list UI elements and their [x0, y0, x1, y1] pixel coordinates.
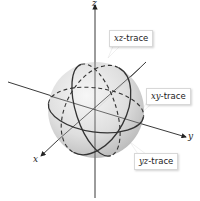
x-axis-front	[41, 140, 58, 156]
y-axis-front	[142, 124, 186, 137]
yz-trace-suffix: -trace	[148, 156, 173, 166]
xz-trace-callout: xz-trace	[109, 30, 153, 47]
xz-trace-var: xz	[114, 33, 123, 43]
xy-trace-callout: xy-trace	[146, 88, 191, 105]
y-axis-label: y	[188, 131, 193, 141]
xy-trace-var: xy	[151, 91, 161, 101]
xz-trace-suffix: -trace	[123, 33, 148, 43]
x-axis-label: x	[33, 154, 38, 164]
yz-trace-var: yz	[139, 156, 148, 166]
z-axis-label: z	[92, 0, 97, 8]
xy-trace-suffix: -trace	[161, 91, 186, 101]
yz-trace-callout: yz-trace	[134, 153, 178, 170]
